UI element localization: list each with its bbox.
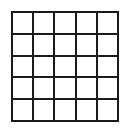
grid-cell[interactable] <box>98 35 117 55</box>
canvas <box>0 0 129 128</box>
grid-cell[interactable] <box>13 13 32 33</box>
empty-grid <box>11 11 119 122</box>
grid-cell[interactable] <box>34 13 53 33</box>
grid-cell[interactable] <box>98 57 117 77</box>
grid-cell[interactable] <box>98 100 117 120</box>
grid-cell[interactable] <box>77 35 96 55</box>
grid-cell[interactable] <box>77 78 96 98</box>
grid-cell[interactable] <box>34 57 53 77</box>
grid-cell[interactable] <box>34 78 53 98</box>
grid-cell[interactable] <box>55 57 74 77</box>
grid-cell[interactable] <box>13 35 32 55</box>
grid-cell[interactable] <box>55 100 74 120</box>
grid-cell[interactable] <box>55 13 74 33</box>
grid-cell[interactable] <box>98 13 117 33</box>
grid-cell[interactable] <box>98 78 117 98</box>
grid-cell[interactable] <box>77 100 96 120</box>
grid-cell[interactable] <box>34 35 53 55</box>
grid-cell[interactable] <box>34 100 53 120</box>
grid-cell[interactable] <box>55 35 74 55</box>
grid-cell[interactable] <box>13 57 32 77</box>
grid-cell[interactable] <box>77 13 96 33</box>
grid-cell[interactable] <box>77 57 96 77</box>
grid-cell[interactable] <box>13 78 32 98</box>
grid-cell[interactable] <box>55 78 74 98</box>
grid-cell[interactable] <box>13 100 32 120</box>
